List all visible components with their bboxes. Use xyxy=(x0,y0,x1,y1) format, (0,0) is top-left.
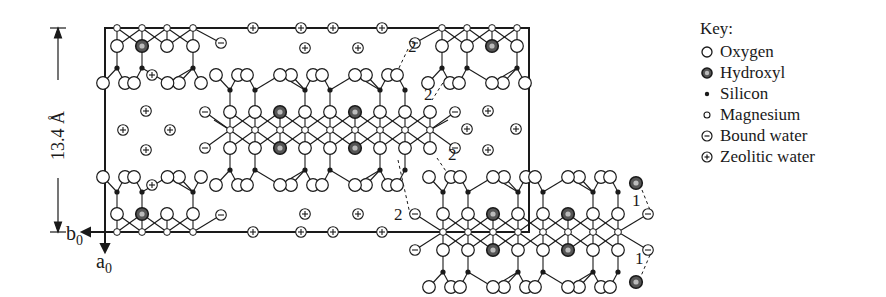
magnesium-icon xyxy=(700,108,714,122)
bond-label-2: 2 xyxy=(448,145,457,164)
legend-label: Zeolitic water xyxy=(720,146,815,167)
axis-b-label: b0 xyxy=(66,222,83,248)
legend-item-magnesium: Magnesium xyxy=(700,104,815,125)
legend-item-zeolitic-water: Zeolitic water xyxy=(700,146,815,167)
legend-label: Silicon xyxy=(720,83,768,104)
oxygen-icon xyxy=(700,45,714,59)
legend-item-silicon: Silicon xyxy=(700,83,815,104)
hydroxyl-icon xyxy=(700,66,714,80)
silicon-icon xyxy=(700,87,714,101)
circle-plus-icon xyxy=(700,150,714,164)
legend: Key: Oxygen Hydroxyl Silicon Magnesium B… xyxy=(700,18,815,167)
legend-label: Oxygen xyxy=(720,41,774,62)
legend-title: Key: xyxy=(700,18,815,39)
atoms xyxy=(97,23,654,294)
bond-label-2: 2 xyxy=(408,37,417,56)
axis-arrows xyxy=(82,228,109,252)
bond-label-2: 2 xyxy=(424,85,433,104)
bond-label-1: 1 xyxy=(635,249,644,268)
legend-item-bound-water: Bound water xyxy=(700,125,815,146)
legend-label: Magnesium xyxy=(720,104,800,125)
dimension-label: 13.4 Å xyxy=(48,111,68,160)
axis-a-label: a0 xyxy=(96,250,112,276)
bond-label-2: 2 xyxy=(394,205,403,224)
circle-minus-icon xyxy=(700,129,714,143)
legend-label: Bound water xyxy=(720,125,807,146)
legend-item-oxygen: Oxygen xyxy=(700,41,815,62)
legend-label: Hydroxyl xyxy=(720,62,785,83)
legend-item-hydroxyl: Hydroxyl xyxy=(700,62,815,83)
bond-label-1: 1 xyxy=(632,191,641,210)
